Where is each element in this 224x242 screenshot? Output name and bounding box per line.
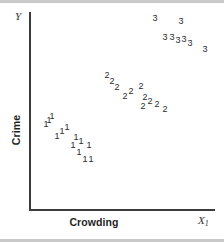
data-point-marker-2: 2 — [128, 87, 133, 96]
data-point-marker-3: 3 — [178, 17, 183, 26]
data-point-marker-3: 3 — [202, 45, 207, 54]
data-point-marker-2: 2 — [162, 105, 167, 114]
scan-edge-top — [0, 0, 224, 3]
data-point-marker-3: 3 — [152, 14, 157, 23]
data-point-marker-1: 1 — [88, 155, 93, 164]
data-point-marker-3: 3 — [169, 33, 174, 42]
y-axis-line — [29, 12, 31, 211]
data-point-marker-1: 1 — [59, 127, 64, 136]
data-point-marker-1: 1 — [86, 141, 91, 150]
data-point-marker-2: 2 — [114, 83, 119, 92]
x-axis-variable-subscript: 1 — [205, 219, 209, 228]
data-point-marker-2: 2 — [138, 82, 143, 91]
data-point-marker-3: 3 — [181, 35, 186, 44]
y-axis-variable-label: Y — [15, 10, 21, 22]
data-point-marker-2: 2 — [109, 77, 114, 86]
data-point-marker-2: 2 — [140, 102, 145, 111]
data-point-marker-1: 1 — [78, 137, 83, 146]
data-point-marker-1: 1 — [70, 141, 75, 150]
x-axis-variable-base: X — [198, 214, 205, 226]
data-point-marker-1: 1 — [46, 116, 51, 125]
x-axis-line — [29, 209, 215, 211]
y-axis-title: Crime — [10, 115, 22, 145]
scatter-plot-figure: Y X1 Crowding Crime 33333333222222222221… — [0, 0, 224, 242]
data-point-marker-3: 3 — [187, 39, 192, 48]
x-axis-variable-label: X1 — [198, 214, 209, 228]
data-point-marker-1: 1 — [82, 155, 87, 164]
data-point-marker-1: 1 — [76, 148, 81, 157]
data-point-marker-3: 3 — [175, 36, 180, 45]
data-point-marker-2: 2 — [122, 92, 127, 101]
x-axis-title: Crowding — [69, 216, 118, 228]
data-point-marker-2: 2 — [147, 97, 152, 106]
data-point-marker-2: 2 — [154, 100, 159, 109]
data-point-marker-1: 1 — [64, 123, 69, 132]
data-point-marker-3: 3 — [162, 33, 167, 42]
